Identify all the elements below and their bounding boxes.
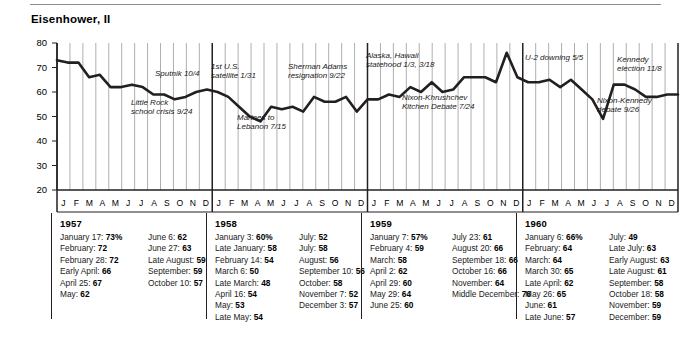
month-tick-label: N [500, 198, 506, 208]
chart-annotation-label: Kennedy [617, 55, 650, 64]
month-tick-label: A [151, 198, 157, 208]
year-heading: 1957 [60, 218, 228, 229]
entry-value: 52 [349, 289, 358, 299]
entry-value: 57 [566, 312, 575, 322]
year-heading: 1960 [525, 218, 691, 229]
month-tick-label: F [74, 198, 79, 208]
chart-annotation-label: Alaska, Hawaii [365, 51, 419, 60]
entry-label: April 25: [60, 278, 93, 288]
entry-value: 61 [657, 266, 666, 276]
month-tick-label: J [449, 198, 453, 208]
entry-label: June 6: [148, 232, 178, 242]
month-tick-label: D [513, 198, 519, 208]
entry-label: April 29: [370, 278, 403, 288]
month-tick-label: S [475, 198, 481, 208]
entry-value: 60 [404, 300, 413, 310]
entry-label: June 27: [148, 243, 182, 253]
year-data-block: 1958January 3: 60%Late January: 58Februa… [206, 213, 385, 319]
data-entry: May: 62 [60, 289, 148, 300]
entry-value: 61 [483, 232, 492, 242]
month-tick-label: D [203, 198, 209, 208]
data-entry: May: 53 [215, 300, 299, 311]
chart-annotation-label: 1st U.S. [211, 62, 239, 71]
month-tick-label: J [281, 198, 285, 208]
entry-value: 58 [654, 278, 663, 288]
entry-label: Late August: [148, 255, 196, 265]
chart-annotation-label: Marines to [237, 113, 275, 122]
entry-label: March 6: [215, 266, 250, 276]
data-entry: October 18: 58 [609, 289, 691, 300]
entry-label: Early August: [609, 255, 660, 265]
month-tick-label: A [99, 198, 105, 208]
y-tick-label: 20 [36, 184, 47, 195]
entry-value: 65 [564, 266, 573, 276]
month-tick-label: N [190, 198, 196, 208]
data-entry: July: 49 [609, 232, 691, 243]
month-tick-label: N [345, 198, 351, 208]
entry-label: May 26: [525, 289, 557, 299]
y-tick-label: 60 [36, 86, 47, 97]
entry-label: October: [299, 278, 333, 288]
entry-label: February 4: [370, 243, 415, 253]
entry-value: 57 [194, 278, 203, 288]
entry-label: June: [525, 300, 548, 310]
entry-value: 58 [398, 255, 407, 265]
data-tables: 1957January 17: 73%February: 72February … [0, 213, 691, 323]
entry-column: January 3: 60%Late January: 58February 1… [215, 232, 299, 323]
entry-label: April 2: [370, 266, 398, 276]
entry-value: 63 [660, 255, 669, 265]
entry-value: 59 [652, 312, 661, 322]
approval-rating-figure: Eisenhower, II 20304050607080 JFMAMJJASO… [0, 0, 691, 340]
y-tick-label: 50 [36, 111, 47, 122]
data-entry: April 16: 54 [215, 289, 299, 300]
data-entry: Late July: 63 [609, 243, 691, 254]
entry-column: January 6: 66%February: 64March: 64March… [525, 232, 609, 323]
entry-label: November 7: [299, 289, 349, 299]
data-entry: January 3: 60% [215, 232, 299, 243]
chart-annotation-label: Sputnik 10/4 [155, 69, 200, 78]
entry-value: 72 [98, 243, 107, 253]
month-tick-label: M [396, 198, 403, 208]
year-heading: 1958 [215, 218, 385, 229]
entry-label: Late May: [215, 312, 254, 322]
month-tick-label: F [384, 198, 389, 208]
entry-value: 66% [566, 232, 583, 242]
chart-annotation-label: Little Rock [131, 98, 169, 107]
month-tick-label: F [229, 198, 234, 208]
chart-annotation-label: statehood 1/3, 3/18 [366, 60, 435, 69]
month-tick-label: J [437, 198, 441, 208]
data-entry: March 6: 50 [215, 266, 299, 277]
month-tick-label: J [372, 198, 376, 208]
entry-label: Late March: [215, 278, 261, 288]
data-entry: May 26: 65 [525, 289, 609, 300]
chart-annotation-label: U-2 downing 5/5 [525, 53, 584, 62]
chart-annotation-label: school crisis 9/24 [131, 107, 193, 116]
entry-label: September: [148, 266, 193, 276]
data-entry: Late June: 57 [525, 312, 609, 323]
month-tick-label: J [605, 198, 609, 208]
entry-columns: January 7: 57%February 4: 59March: 58Apr… [370, 232, 540, 312]
entry-value: 62 [80, 289, 89, 299]
entry-column: January 17: 73%February: 72February 28: … [60, 232, 148, 300]
month-tick-label: N [655, 198, 661, 208]
entry-value: 48 [261, 278, 270, 288]
entry-label: March: [525, 255, 553, 265]
month-tick-label: M [241, 198, 248, 208]
month-tick-label: J [294, 198, 298, 208]
month-tick-label: O [642, 198, 649, 208]
entry-label: May: [60, 289, 80, 299]
data-entry: January 6: 66% [525, 232, 609, 243]
entry-value: 63 [647, 243, 656, 253]
month-tick-label: M [422, 198, 429, 208]
entry-value: 58 [333, 278, 342, 288]
entry-value: 63 [182, 243, 191, 253]
y-tick-label: 70 [36, 62, 47, 73]
month-tick-label: A [306, 198, 312, 208]
chart-annotation-label: Lebanon 7/15 [237, 122, 286, 131]
month-tick-label: D [668, 198, 674, 208]
entry-label: Late August: [609, 266, 657, 276]
data-entry: January 17: 73% [60, 232, 148, 243]
entry-label: January 7: [370, 232, 411, 242]
entry-label: July 23: [452, 232, 483, 242]
entry-value: 66 [494, 243, 503, 253]
